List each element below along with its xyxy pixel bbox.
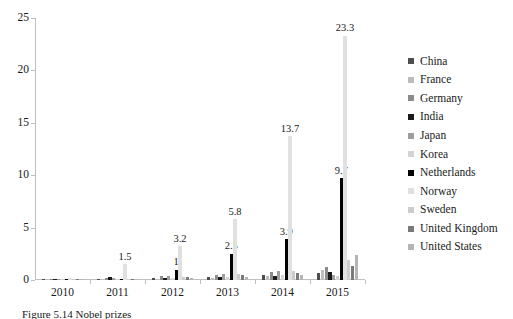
legend-swatch-icon — [408, 95, 414, 101]
bar — [347, 260, 350, 280]
legend-label: France — [420, 74, 451, 86]
bar — [222, 274, 225, 280]
legend-label: Norway — [420, 186, 457, 198]
legend-item-norway[interactable]: Norway — [408, 182, 513, 201]
bar — [68, 278, 71, 280]
y-tick-label: 20 — [18, 65, 30, 77]
bar: 23.3 — [343, 36, 346, 280]
bar-value-label: 5.8 — [228, 207, 241, 218]
bar — [76, 279, 79, 280]
legend-swatch-icon — [408, 244, 414, 250]
bar — [72, 279, 75, 280]
bar — [351, 266, 354, 280]
x-tick — [365, 280, 366, 284]
x-tick — [310, 280, 311, 284]
bar — [65, 279, 68, 280]
bar — [273, 276, 276, 280]
y-tick — [31, 123, 35, 124]
bar — [46, 279, 49, 280]
legend-label: Netherlands — [420, 167, 476, 179]
bar — [61, 279, 64, 280]
legend-item-japan[interactable]: Japan — [408, 126, 513, 145]
legend-item-germany[interactable]: Germany — [408, 89, 513, 108]
bar — [97, 279, 100, 280]
legend-swatch-icon — [408, 114, 414, 120]
legend-item-france[interactable]: France — [408, 71, 513, 90]
bar — [237, 274, 240, 280]
bar — [156, 279, 159, 280]
x-tick-label: 2015 — [326, 287, 349, 299]
bar — [332, 275, 335, 280]
bar — [211, 278, 214, 280]
bar: 13.7 — [288, 136, 291, 280]
bar — [42, 279, 45, 280]
legend-label: Germany — [420, 93, 463, 105]
bar — [218, 277, 221, 280]
x-tick-label: 2014 — [271, 287, 294, 299]
legend-item-netherlands[interactable]: Netherlands — [408, 164, 513, 183]
bar — [355, 255, 358, 280]
bar — [50, 279, 53, 280]
y-tick — [31, 70, 35, 71]
legend-label: Korea — [420, 149, 448, 161]
x-tick-label: 2011 — [106, 287, 129, 299]
bar — [131, 279, 134, 280]
bar — [296, 273, 299, 280]
y-tick-label: 5 — [23, 222, 29, 234]
bar — [116, 279, 119, 280]
bar-value-label: 3.2 — [173, 234, 186, 245]
bar — [321, 270, 324, 280]
x-tick — [200, 280, 201, 284]
legend-label: Sweden — [420, 204, 456, 216]
legend-item-china[interactable]: China — [408, 52, 513, 71]
bar — [226, 277, 229, 280]
bar — [270, 272, 273, 280]
bar: 5.8 — [233, 219, 236, 280]
legend-swatch-icon — [408, 58, 414, 64]
bar — [262, 275, 265, 280]
x-tick-label: 2010 — [51, 287, 74, 299]
x-tick-label: 2012 — [161, 287, 184, 299]
legend-label: United States — [420, 241, 482, 253]
legend-item-korea[interactable]: Korea — [408, 145, 513, 164]
bar — [245, 277, 248, 280]
bar — [266, 276, 269, 280]
bar — [292, 271, 295, 280]
legend-swatch-icon — [408, 226, 414, 232]
y-tick-label: 10 — [18, 169, 30, 181]
bar — [120, 279, 123, 280]
bar — [277, 271, 280, 280]
bar — [53, 279, 56, 280]
legend-swatch-icon — [408, 151, 414, 157]
bar — [112, 278, 115, 280]
legend-item-united-states[interactable]: United States — [408, 238, 513, 257]
chart-plot-area: 0510152025 201020112012201320142015 1.51… — [35, 18, 365, 280]
bar — [57, 279, 60, 280]
bar: 9.7 — [340, 178, 343, 280]
bar — [317, 273, 320, 280]
bar — [328, 272, 331, 280]
bar — [80, 279, 83, 280]
legend-label: United Kingdom — [420, 223, 498, 235]
legend-swatch-icon — [408, 77, 414, 83]
legend-item-india[interactable]: India — [408, 108, 513, 127]
legend-item-united-kingdom[interactable]: United Kingdom — [408, 219, 513, 238]
x-tick-label: 2013 — [216, 287, 239, 299]
legend-label: China — [420, 56, 447, 68]
legend-swatch-icon — [408, 207, 414, 213]
bar — [152, 278, 155, 280]
bar — [300, 275, 303, 280]
legend-label: Japan — [420, 130, 446, 142]
y-tick-label: 15 — [18, 117, 30, 129]
bar: 2.5 — [230, 254, 233, 280]
bar — [325, 267, 328, 280]
y-tick-label: 0 — [23, 274, 29, 286]
bar — [105, 278, 108, 280]
y-tick-label: 25 — [18, 12, 30, 24]
legend-item-sweden[interactable]: Sweden — [408, 201, 513, 220]
bar — [207, 277, 210, 280]
bar — [167, 276, 170, 280]
x-tick — [255, 280, 256, 284]
bar-value-label: 13.7 — [281, 124, 299, 135]
x-tick — [90, 280, 91, 284]
